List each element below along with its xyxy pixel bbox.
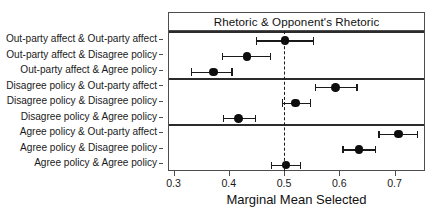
x-axis-tick	[229, 171, 230, 176]
error-bar-cap-high	[375, 146, 376, 153]
x-axis-tick	[395, 171, 396, 176]
y-axis-label: Out-party affect & Agree policy	[20, 62, 157, 78]
y-axis-label: Out-party affect & Disagree policy	[6, 47, 157, 63]
x-axis-tick-label: 0.4	[221, 177, 236, 189]
data-point	[243, 52, 252, 61]
error-bar-cap-low	[271, 162, 272, 169]
y-axis-labels: Out-party affect & Out-party affectOut-p…	[0, 31, 163, 171]
error-bar-cap-low	[378, 131, 379, 138]
plot-panels	[168, 31, 425, 171]
y-axis-label: Agree policy & Agree policy	[34, 155, 157, 171]
y-axis-tick	[159, 39, 163, 40]
error-bar-cap-high	[300, 162, 301, 169]
error-bar-cap-low	[256, 37, 257, 44]
disagree-policy-panel	[169, 78, 424, 125]
chart-title: Rhetoric & Opponent's Rhetoric	[214, 15, 380, 28]
error-bar-cap-high	[270, 53, 271, 60]
y-axis-label: Disagree policy & Disagree policy	[7, 93, 157, 109]
data-row	[169, 126, 424, 142]
facet-strip: Rhetoric & Opponent's Rhetoric	[168, 12, 425, 31]
reference-line-0.5	[284, 31, 285, 171]
error-bar-cap-high	[313, 37, 314, 44]
y-axis-tick	[159, 117, 163, 118]
y-axis-tick	[159, 148, 163, 149]
x-axis-tick	[174, 171, 175, 176]
marginal-means-figure: Out-party affect & Out-party affectOut-p…	[0, 0, 439, 217]
y-axis-label: Out-party affect & Out-party affect	[6, 31, 157, 47]
x-axis-tick	[284, 171, 285, 176]
y-axis-tick	[159, 70, 163, 71]
x-axis-tick	[339, 171, 340, 176]
error-bar-cap-low	[223, 115, 224, 122]
y-axis-label: Agree policy & Disagree policy	[20, 140, 157, 156]
data-row	[169, 95, 424, 111]
x-axis-tick-label: 0.6	[332, 177, 347, 189]
y-axis-label: Disagree policy & Out-party affect	[6, 78, 157, 94]
y-axis-label: Agree policy & Out-party affect	[20, 124, 157, 140]
data-row	[169, 49, 424, 65]
error-bar-cap-low	[315, 84, 316, 91]
error-bar-cap-high	[255, 115, 256, 122]
x-axis-tick-label: 0.7	[387, 177, 402, 189]
y-axis-tick	[159, 101, 163, 102]
data-row	[169, 142, 424, 158]
data-point	[355, 145, 364, 154]
out-party-affect-panel	[169, 31, 424, 78]
x-axis-title: Marginal Mean Selected	[168, 192, 425, 207]
y-axis-tick	[159, 132, 163, 133]
data-row	[169, 157, 424, 171]
error-bar-cap-low	[222, 53, 223, 60]
y-axis-tick	[159, 54, 163, 55]
x-axis-tick-label: 0.5	[277, 177, 292, 189]
error-bar-cap-high	[417, 131, 418, 138]
error-bar-cap-high	[231, 68, 232, 75]
error-bar-cap-low	[191, 68, 192, 75]
y-axis-label: Disagree policy & Agree policy	[21, 109, 157, 125]
x-axis-tick-label: 0.3	[166, 177, 181, 189]
error-bar-cap-low	[342, 146, 343, 153]
data-point	[291, 99, 300, 108]
data-point	[331, 83, 340, 92]
data-row	[169, 80, 424, 96]
error-bar-cap-high	[310, 99, 311, 106]
y-axis-tick	[159, 163, 163, 164]
error-bar-cap-high	[356, 84, 357, 91]
y-axis-tick	[159, 85, 163, 86]
data-row	[169, 33, 424, 49]
data-point	[209, 68, 218, 77]
agree-policy-panel	[169, 124, 424, 171]
data-point	[394, 130, 403, 139]
data-point	[234, 114, 243, 123]
x-axis: 0.30.40.50.60.7	[168, 171, 425, 177]
error-bar-cap-low	[282, 99, 283, 106]
